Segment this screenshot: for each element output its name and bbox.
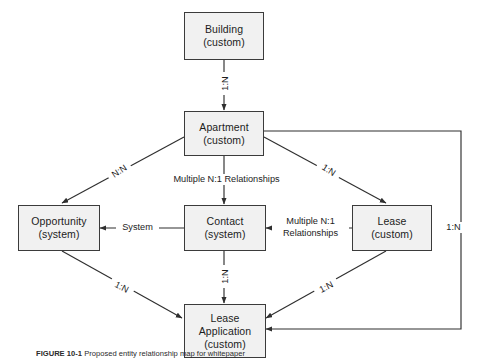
edge-label-apartment-contact: Multiple N:1 Relationships xyxy=(158,174,295,185)
entity-kind: (system) xyxy=(38,228,79,241)
edge-label-contact-opportunity: System xyxy=(116,222,159,233)
entity-box-building[interactable]: Building (custom) xyxy=(184,12,264,60)
entity-kind: (custom) xyxy=(371,228,413,241)
entity-box-contact[interactable]: Contact (system) xyxy=(184,205,266,251)
figure-caption-text: Proposed entity relationship map for whi… xyxy=(84,349,245,358)
entity-name: Contact xyxy=(207,215,244,228)
entity-box-lease[interactable]: Lease (custom) xyxy=(352,205,432,251)
entity-name: Apartment xyxy=(199,121,248,134)
entity-box-opportunity[interactable]: Opportunity (system) xyxy=(18,205,100,251)
entity-box-apartment[interactable]: Apartment (custom) xyxy=(184,111,264,156)
figure-caption-label: FIGURE 10-1 xyxy=(36,349,82,358)
edge-label-lease-contact: Multiple N:1 Relationships xyxy=(272,216,349,239)
entity-kind: (system) xyxy=(204,228,245,241)
entity-name-line2: Application xyxy=(199,325,251,338)
edge-label-building-apartment: 1:N xyxy=(220,72,231,95)
entity-name: Lease xyxy=(377,215,406,228)
edge-label-line1: Multiple N:1 xyxy=(286,216,335,226)
figure-caption: FIGURE 10-1 Proposed entity relationship… xyxy=(36,349,245,359)
entity-name-line1: Lease xyxy=(210,312,239,325)
edge-label-line2: Relationships xyxy=(283,228,338,238)
entity-name: Building xyxy=(205,23,243,36)
figure-container: Building (custom) Apartment (custom) Opp… xyxy=(0,0,479,362)
entity-kind: (custom) xyxy=(203,36,245,49)
entity-kind: (custom) xyxy=(203,134,245,147)
edge-label-contact-leaseapp: 1:N xyxy=(220,265,231,288)
entity-name: Opportunity xyxy=(31,215,86,228)
edge-label-apartment-leaseapp: 1:N xyxy=(441,222,466,233)
